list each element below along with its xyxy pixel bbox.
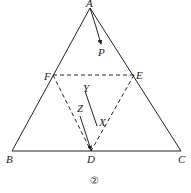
segment-ed <box>91 75 134 151</box>
label-p: P <box>97 46 105 58</box>
label-d: D <box>86 153 95 165</box>
label-f: F <box>43 70 51 82</box>
label-x: X <box>98 116 107 128</box>
side-ab <box>12 8 90 151</box>
vector-ap <box>90 8 101 44</box>
label-z: Z <box>77 102 84 114</box>
label-y: Y <box>83 82 91 94</box>
triangle-diagram: A B C D E F P Y X Z ② <box>0 0 191 193</box>
label-a: A <box>85 0 93 9</box>
vector-yx <box>85 91 97 126</box>
label-c: C <box>178 153 186 165</box>
vectors <box>80 8 101 150</box>
triangle-def <box>53 75 134 151</box>
figure-caption: ② <box>90 175 99 186</box>
label-b: B <box>6 153 13 165</box>
label-e: E <box>135 69 143 81</box>
